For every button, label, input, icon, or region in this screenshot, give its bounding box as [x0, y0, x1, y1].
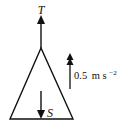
- tension-arrow: [37, 15, 45, 48]
- s-force-arrow: [37, 91, 45, 119]
- tension-label: T: [38, 3, 46, 17]
- acceleration-arrow-icon: [67, 53, 74, 89]
- acceleration-label: 0.5 m s −2: [74, 69, 117, 81]
- force-diagram: T S 0.5 m s −2: [0, 0, 132, 132]
- s-force-label: S: [47, 106, 53, 120]
